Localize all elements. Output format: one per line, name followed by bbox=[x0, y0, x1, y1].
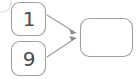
edge-nine-to-target bbox=[47, 40, 74, 58]
diagram-svg: 1 9 bbox=[0, 0, 138, 79]
corner-arc-decoration bbox=[0, 0, 11, 12]
node-nine-label: 9 bbox=[23, 47, 36, 71]
arrowhead-one-icon bbox=[70, 30, 78, 35]
edge-one-to-target bbox=[47, 15, 74, 32]
diagram-canvas: 1 9 bbox=[0, 0, 138, 79]
node-target[interactable] bbox=[81, 19, 133, 57]
node-one-label: 1 bbox=[23, 7, 36, 31]
